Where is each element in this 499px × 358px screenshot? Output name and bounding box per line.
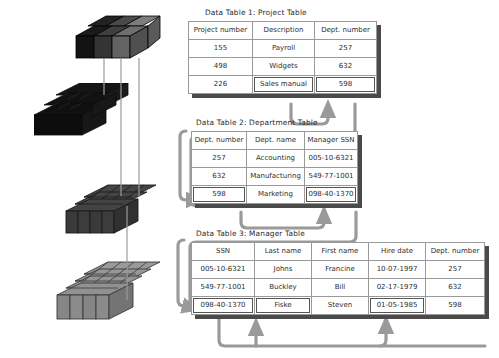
table-cell: 005-10-6321 [305,150,358,168]
table-cell: 257 [192,150,247,168]
table-row: 498 Widgets 632 [189,58,377,76]
table-cell: Widgets [253,58,315,76]
cube-stack-second-icon [34,83,139,145]
department-table-wrap: Dept. number Dept. name Manager SSN 257 … [191,131,358,204]
table-cell: 226 [189,76,253,94]
table-cell: Francine [312,261,369,279]
table-cell: 598 [426,297,485,315]
table-cell-highlighted: 098-40-1370 [305,186,358,204]
table-cell: Accounting [247,150,305,168]
block-second [34,83,139,145]
table-cell: 02-17-1979 [369,279,426,297]
table-cell: 632 [192,168,247,186]
connector-manager-bottom-bus [219,317,485,346]
column-header: Hire date [369,243,426,261]
column-header: First name [312,243,369,261]
column-header: Dept. name [247,132,305,150]
table-cell: Manufacturing [247,168,305,186]
column-header: Description [253,22,315,40]
table-cell: 155 [189,40,253,58]
column-header: Dept. number [315,22,377,40]
department-table-caption: Data Table 2: Department Table [196,118,318,127]
column-header: Dept. number [426,243,485,261]
table-row: 226 Sales manual 598 [189,76,377,94]
table-cell: 549-77-1001 [305,168,358,186]
table-cell: 257 [426,261,485,279]
table-cell-highlighted: Fiske [255,297,312,315]
column-header: SSN [192,243,255,261]
table-row: 549-77-1001 Buckley Bill 02-17-1979 632 [192,279,485,297]
cube-stack-top-icon [74,14,162,70]
table-cell-highlighted: Sales manual [253,76,315,94]
project-table: Project number Description Dept. number … [188,21,377,94]
table-row: 632 Manufacturing 549-77-1001 [192,168,358,186]
table-cell: Steven [312,297,369,315]
table-row: 257 Accounting 005-10-6321 [192,150,358,168]
table-row: 005-10-6321 Johns Francine 10-07-1997 25… [192,261,485,279]
manager-table-caption: Data Table 3: Manager Table [196,229,305,238]
column-header: Project number [189,22,253,40]
project-table-caption: Data Table 1: Project Table [205,8,307,17]
column-header: Last name [255,243,312,261]
manager-table: SSN Last name First name Hire date Dept.… [191,242,485,315]
table-cell-highlighted: 01-05-1985 [369,297,426,315]
column-header: Manager SSN [305,132,358,150]
block-top [74,14,162,70]
table-row: 598 Marketing 098-40-1370 [192,186,358,204]
table-cell: Buckley [255,279,312,297]
table-header-row: SSN Last name First name Hire date Dept.… [192,243,485,261]
table-cell: 632 [426,279,485,297]
connector-manager-hiredate-in [380,324,386,346]
table-row: 098-40-1370 Fiske Steven 01-05-1985 598 [192,297,485,315]
table-header-row: Project number Description Dept. number [189,22,377,40]
table-cell-highlighted: 098-40-1370 [192,297,255,315]
table-cell-highlighted: 598 [315,76,377,94]
cube-stack-bottom-icon [48,258,173,350]
table-cell: Johns [255,261,312,279]
connector-manager-ssn-in [178,240,192,308]
block-bottom [48,258,173,350]
diagram-canvas: Data Table 1: Project Table Project numb… [0,0,499,358]
department-table: Dept. number Dept. name Manager SSN 257 … [191,131,358,204]
table-cell: Payroll [253,40,315,58]
table-cell: 10-07-1997 [369,261,426,279]
project-table-wrap: Project number Description Dept. number … [188,21,377,94]
table-header-row: Dept. number Dept. name Manager SSN [192,132,358,150]
cube-stack-third-icon [58,183,163,253]
table-cell: 549-77-1001 [192,279,255,297]
table-cell: 005-10-6321 [192,261,255,279]
column-header: Dept. number [192,132,247,150]
table-cell: 257 [315,40,377,58]
table-cell: 498 [189,58,253,76]
table-row: 155 Payroll 257 [189,40,377,58]
manager-table-wrap: SSN Last name First name Hire date Dept.… [191,242,485,315]
table-cell: Marketing [247,186,305,204]
table-cell: Bill [312,279,369,297]
table-cell: 632 [315,58,377,76]
block-third [58,183,163,253]
table-cell-highlighted: 598 [192,186,247,204]
